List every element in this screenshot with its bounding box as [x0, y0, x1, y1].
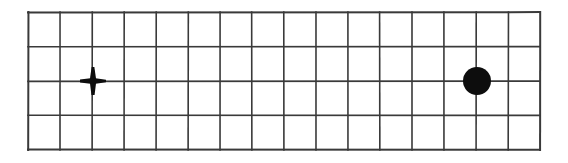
figure-canvas — [0, 0, 568, 163]
dot-marker — [463, 67, 491, 95]
grid-figure — [0, 0, 568, 163]
